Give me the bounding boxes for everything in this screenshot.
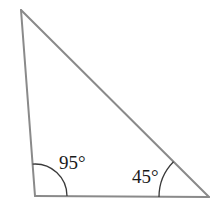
angle-label-95: 95° [59, 152, 86, 173]
angle-label-45: 45° [132, 166, 159, 187]
edge-left [21, 10, 35, 196]
edge-base [35, 196, 209, 197]
angle-arc-45 [159, 162, 174, 197]
triangle-diagram: 95° 45° [0, 0, 218, 209]
triangle [21, 10, 209, 197]
edge-hypotenuse [21, 10, 209, 197]
